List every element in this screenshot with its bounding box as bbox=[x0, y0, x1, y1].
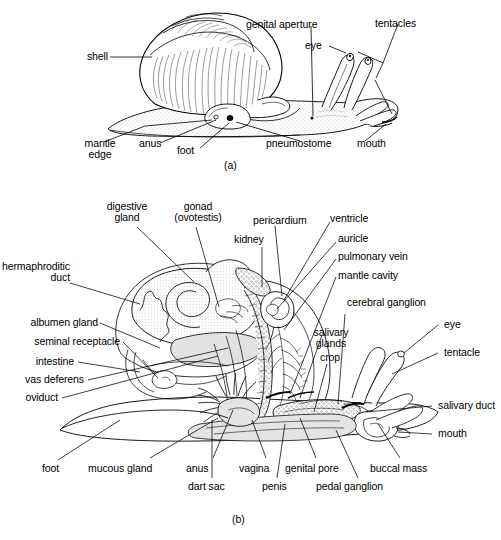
eye-right bbox=[364, 57, 372, 65]
leader-seminal-receptacle bbox=[123, 342, 158, 378]
seminal-receptacle-shape bbox=[152, 371, 177, 389]
label-buccal-mass: buccal mass bbox=[370, 463, 427, 475]
beaded-tube bbox=[244, 288, 272, 422]
intestine-loop-1 bbox=[126, 350, 206, 399]
leader-vagina bbox=[252, 420, 266, 458]
label-salivary-glands-line1: salivary bbox=[314, 326, 349, 338]
label-shell: shell bbox=[54, 51, 108, 63]
label-mouth-b: mouth bbox=[438, 428, 467, 440]
label-albumen-gland: albumen gland bbox=[10, 317, 98, 329]
label-kidney: kidney bbox=[234, 234, 264, 246]
label-cerebral-ganglion: cerebral ganglion bbox=[347, 297, 426, 309]
tentacle-b-3 bbox=[370, 394, 413, 420]
label-mantle-edge-line1: mantle bbox=[85, 137, 116, 149]
tentacle-b-2 bbox=[366, 352, 404, 406]
heart-group bbox=[261, 292, 294, 328]
gonad-spiral bbox=[166, 282, 210, 327]
label-mantle-cavity: mantle cavity bbox=[338, 270, 398, 282]
leader-auricle bbox=[277, 242, 336, 309]
label-hermaphroditic-duct-line1: hermaphroditic bbox=[2, 260, 70, 272]
label-dart-sac: dart sac bbox=[188, 481, 225, 493]
caption-panel-b: (b) bbox=[232, 513, 245, 525]
leader-tentacles-1 bbox=[383, 24, 398, 63]
leader-hermaphroditic-duct bbox=[70, 283, 140, 304]
genital-aperture-point bbox=[310, 116, 313, 119]
label-genital-aperture: genital aperture bbox=[246, 19, 317, 31]
label-salivary-glands: salivary glands bbox=[305, 327, 357, 350]
leader-oviduct bbox=[62, 356, 218, 398]
pericardium-shape bbox=[261, 292, 294, 328]
body-outline-bottom bbox=[60, 412, 438, 441]
body-outline-top bbox=[60, 397, 438, 430]
pulmonary-vein-network bbox=[266, 326, 308, 410]
leader-genital-pore bbox=[300, 418, 316, 458]
label-eye: eye bbox=[305, 40, 322, 52]
vas-deferens-path bbox=[226, 336, 237, 410]
label-seminal-receptacle: seminal receptacle bbox=[2, 336, 120, 348]
auricle-shape bbox=[266, 304, 278, 315]
tentacle-upper-left bbox=[322, 55, 354, 110]
mantle-cavity-outline bbox=[255, 280, 330, 424]
caption-panel-a: (a) bbox=[224, 159, 237, 171]
label-foot-b: foot bbox=[42, 463, 59, 475]
label-penis: penis bbox=[262, 481, 287, 493]
leader-anus-b bbox=[213, 410, 233, 458]
leader-foot-b bbox=[58, 420, 120, 460]
label-pericardium: pericardium bbox=[253, 215, 307, 227]
label-salivary-glands-line2: glands bbox=[316, 337, 346, 349]
leader-pericardium bbox=[275, 226, 282, 296]
ventricle-shape bbox=[270, 298, 289, 320]
label-mouth: mouth bbox=[357, 138, 386, 150]
label-digestive-gland-line1: digestive bbox=[107, 200, 148, 212]
label-gonad-line1: gonad bbox=[184, 200, 213, 212]
label-mucous-gland: mucous gland bbox=[88, 463, 152, 475]
leader-foot bbox=[200, 123, 229, 148]
buccal-mass-shape bbox=[354, 411, 398, 441]
mouth-marking bbox=[382, 117, 397, 122]
mantle-cavity-marker bbox=[266, 392, 290, 398]
leader-salivary-duct bbox=[366, 406, 432, 412]
leader-pedal-ganglion bbox=[336, 430, 358, 478]
label-digestive-gland: digestive gland bbox=[92, 201, 162, 224]
leader-anus bbox=[160, 120, 216, 143]
leader-pulmonary-vein bbox=[284, 259, 336, 330]
leader-mucous-gland bbox=[150, 418, 218, 458]
label-hermaphroditic-duct: hermaphroditic duct bbox=[0, 261, 70, 284]
leader-mouth-b bbox=[398, 432, 432, 434]
leader-mantle-edge-2 bbox=[145, 120, 212, 126]
leader-eye-b bbox=[404, 325, 438, 353]
figure-root: shell genital aperture tentacles eye man… bbox=[0, 0, 501, 540]
leader-crop bbox=[314, 364, 327, 412]
label-vas-deferens: vas deferens bbox=[4, 374, 84, 386]
panel-a-leaders bbox=[104, 24, 398, 148]
leader-vas-deferens bbox=[88, 348, 228, 380]
leader-tentacles-3 bbox=[376, 63, 383, 78]
label-eye-b: eye bbox=[444, 319, 461, 331]
label-digestive-gland-line2: gland bbox=[114, 211, 139, 223]
label-foot: foot bbox=[177, 145, 194, 157]
foot-outline bbox=[62, 410, 228, 428]
digestive-gland-mass bbox=[132, 268, 258, 345]
label-mantle-edge: mantle edge bbox=[70, 138, 130, 161]
label-intestine: intestine bbox=[8, 356, 74, 368]
label-auricle: auricle bbox=[338, 233, 368, 245]
salivary-duct-path bbox=[344, 404, 372, 414]
cerebral-ganglion-marker bbox=[342, 404, 364, 408]
label-pneumostome: pneumostome bbox=[266, 138, 331, 150]
label-tentacle-b: tentacle bbox=[444, 347, 480, 359]
albumen-gland-shape bbox=[171, 333, 262, 367]
visceral-outline bbox=[116, 263, 274, 377]
eye-b bbox=[398, 351, 405, 357]
label-salivary-duct: salivary duct bbox=[438, 400, 495, 412]
tentacle-lower-upper bbox=[356, 102, 388, 120]
kidney-shape bbox=[236, 268, 270, 296]
label-oviduct: oviduct bbox=[6, 392, 58, 404]
leader-tentacles-2 bbox=[358, 52, 383, 63]
label-gonad-line2: (ovotestis) bbox=[174, 211, 221, 223]
genital-atrium-band bbox=[188, 414, 356, 441]
label-genital-pore: genital pore bbox=[285, 463, 339, 475]
crop-shape bbox=[273, 400, 360, 426]
mouth-shape-b bbox=[396, 428, 410, 434]
panel-a-artwork bbox=[0, 0, 501, 540]
pneumostome-opening bbox=[227, 115, 233, 120]
